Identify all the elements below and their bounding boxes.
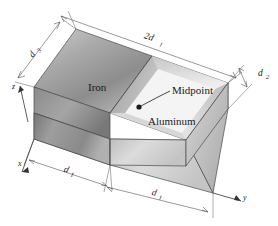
axis-y: y: [213, 193, 247, 202]
dimension-d1-right-subscript: 1: [158, 193, 163, 201]
axis-z-label: z: [11, 82, 16, 91]
aluminum-label: Aluminum: [148, 115, 196, 127]
block-diagram-svg: Iron Aluminum Midpoint 2d 1 d 3: [0, 0, 278, 226]
axis-x-label: x: [17, 159, 22, 168]
axis-z: z: [11, 82, 28, 122]
axis-x: x: [17, 139, 34, 173]
midpoint-dot: [136, 104, 141, 109]
dimension-d2-base: d: [258, 68, 263, 78]
dimension-thickness-d2: d 2: [228, 65, 270, 109]
axis-y-label: y: [242, 193, 247, 202]
figure-container: Iron Aluminum Midpoint 2d 1 d 3: [0, 0, 278, 226]
front-band-right: [110, 139, 186, 166]
dimension-d2-subscript: 2: [266, 73, 270, 80]
iron-label: Iron: [88, 81, 107, 93]
dimension-d1-right-base: d: [151, 187, 158, 198]
dimension-d3-subscript: 3: [34, 46, 43, 54]
midpoint-label: Midpoint: [172, 84, 213, 96]
solid-block: [34, 29, 228, 193]
dimension-d1-left-subscript: 1: [70, 171, 75, 179]
